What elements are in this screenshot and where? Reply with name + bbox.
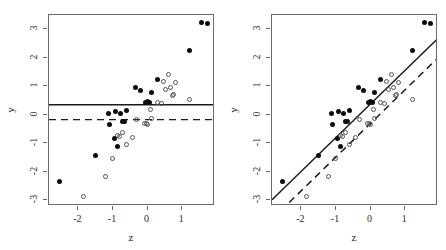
data-point-filled [378,77,383,82]
data-point-open [171,92,176,97]
y-tick-label: 0 [251,107,262,121]
dashed-regression [272,58,437,205]
y-tick-label: 2 [251,50,262,64]
data-point-filled [93,153,98,158]
y-tick [43,142,47,143]
data-point-filled [316,153,321,158]
data-point-filled [155,77,160,82]
y-tick-label: -2 [28,164,39,178]
x-tick [335,206,336,210]
x-tick-label: 1 [402,213,407,224]
y-tick-label: -1 [251,135,262,149]
data-point-open [389,72,394,77]
x-tick [404,206,405,210]
data-point-open [394,92,399,97]
data-point-open [159,101,164,106]
y-tick [266,57,270,58]
y-tick [43,114,47,115]
y-tick-label: 2 [28,50,39,64]
data-point-filled [199,20,204,25]
y-tick-label: -1 [28,135,39,149]
data-point-filled [345,119,350,124]
x-tick [370,206,371,210]
data-point-filled [422,20,427,25]
fit-lines [272,15,436,204]
data-point-open [353,135,358,140]
data-point-open [168,85,173,90]
data-point-open [382,101,387,106]
data-point-open [145,122,150,127]
y-tick [266,28,270,29]
y-tick [266,199,270,200]
x-tick-label: 1 [179,213,184,224]
figure-scatter-pair: -3-2-10123-2-101zy -3-2-10123-2-101zy [0,0,446,250]
data-point-open [372,116,377,121]
x-tick [147,206,148,210]
x-tick-label: 0 [144,213,149,224]
data-point-filled [338,144,343,149]
y-tick [43,199,47,200]
data-point-open [326,174,331,179]
data-point-filled [57,179,62,184]
data-point-open [103,174,108,179]
data-point-filled [428,21,433,26]
y-axis-label: y [227,107,239,113]
y-tick [266,114,270,115]
y-tick [266,85,270,86]
data-point-filled [205,21,210,26]
y-tick-label: 1 [28,78,39,92]
y-tick-label: -3 [251,192,262,206]
data-point-open [134,117,139,122]
data-point-filled [361,88,366,93]
x-tick-label: -2 [296,213,304,224]
data-point-filled [138,88,143,93]
x-tick-label: -1 [331,213,339,224]
y-axis-label: y [4,107,16,113]
data-point-filled [370,100,375,105]
data-point-open [391,85,396,90]
fit-lines [49,15,213,204]
data-point-filled [147,100,152,105]
x-tick [181,206,182,210]
y-tick-label: 3 [251,21,262,35]
y-tick [43,171,47,172]
solid-regression [272,38,437,199]
x-axis-label: z [352,231,357,243]
data-point-filled [372,90,377,95]
x-tick-label: 0 [367,213,372,224]
plot-area [48,14,214,205]
x-tick-label: -1 [108,213,116,224]
data-point-filled [149,90,154,95]
y-tick-label: 0 [28,107,39,121]
y-tick-label: -2 [251,164,262,178]
y-tick [43,85,47,86]
data-point-filled [330,122,335,127]
data-point-open [130,135,135,140]
x-tick-label: -2 [73,213,81,224]
data-point-filled [107,122,112,127]
data-point-open [149,116,154,121]
y-tick [266,171,270,172]
data-point-open [410,97,415,102]
y-tick-label: -3 [28,192,39,206]
y-tick-label: 1 [251,78,262,92]
x-tick [77,206,78,210]
plot-area [271,14,437,205]
y-tick-label: 3 [28,21,39,35]
y-tick [43,57,47,58]
data-point-filled [122,119,127,124]
y-tick [266,142,270,143]
data-point-open [187,97,192,102]
x-tick [300,206,301,210]
x-axis-label: z [129,231,134,243]
y-tick [43,28,47,29]
data-point-open [166,72,171,77]
panel-right: -3-2-10123-2-101zy [223,0,446,250]
data-point-open [368,122,373,127]
panel-left: -3-2-10123-2-101zy [0,0,223,250]
data-point-open [357,117,362,122]
data-point-filled [115,144,120,149]
x-tick [112,206,113,210]
data-point-filled [280,179,285,184]
